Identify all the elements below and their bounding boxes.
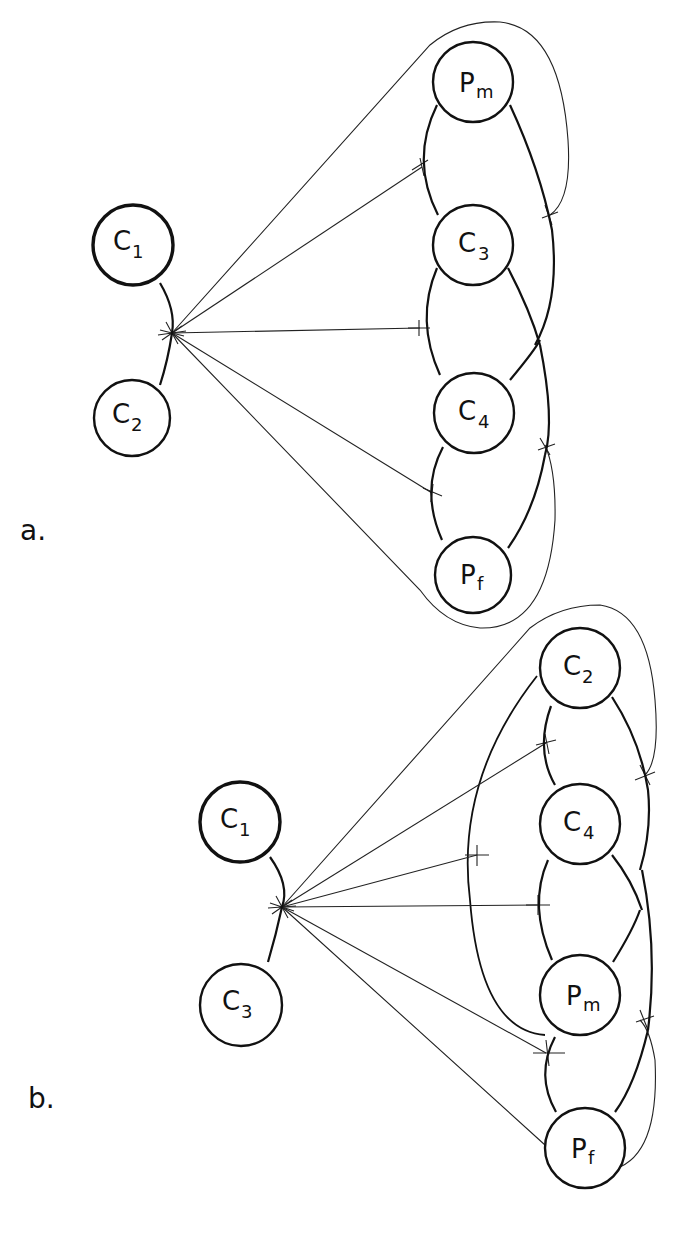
svg-text:C: C — [220, 804, 238, 834]
node-C3-b: C 3 — [200, 964, 282, 1046]
svg-text:C: C — [563, 651, 581, 681]
svg-text:P: P — [566, 981, 582, 1011]
panel-label-b: b. — [28, 1082, 55, 1115]
node-C1-b: C 1 — [200, 782, 280, 862]
node-C4-b: C 4 — [540, 784, 620, 864]
node-C2-a: C 2 — [94, 380, 170, 456]
chain-edges-a — [424, 105, 554, 548]
svg-text:4: 4 — [583, 822, 594, 843]
svg-text:P: P — [460, 560, 476, 590]
svg-text:P: P — [571, 1134, 587, 1164]
svg-text:3: 3 — [478, 243, 489, 264]
svg-text:C: C — [458, 228, 476, 258]
svg-text:C: C — [113, 226, 131, 256]
svg-text:4: 4 — [478, 411, 489, 432]
svg-text:2: 2 — [131, 414, 142, 435]
svg-text:1: 1 — [239, 819, 250, 840]
panel-label-a: a. — [20, 514, 46, 547]
svg-text:C: C — [563, 807, 581, 837]
svg-text:C: C — [112, 399, 130, 429]
node-C1-a: C 1 — [93, 205, 173, 285]
diagram-canvas: C 1 C 2 P m C 3 C 4 P f a. — [0, 0, 682, 1235]
node-Pf-b: P f — [545, 1108, 625, 1188]
svg-text:f: f — [588, 1147, 595, 1168]
spokes-a — [158, 22, 569, 628]
hub-stem-b — [268, 857, 284, 962]
svg-text:C: C — [222, 986, 240, 1016]
svg-text:f: f — [477, 573, 484, 594]
node-C4-a: C 4 — [434, 373, 514, 453]
svg-text:m: m — [476, 81, 494, 102]
node-Pm-a: P m — [433, 42, 513, 122]
svg-text:m: m — [583, 994, 601, 1015]
svg-text:3: 3 — [241, 1001, 252, 1022]
svg-text:C: C — [458, 396, 476, 426]
node-C2-b: C 2 — [540, 628, 620, 708]
node-C3-a: C 3 — [433, 205, 513, 285]
chain-edges-b — [539, 697, 652, 1112]
node-Pf-a: P f — [435, 537, 511, 613]
panel-b: C 1 C 3 C 2 C 4 P m P f b. — [28, 605, 656, 1188]
panel-a: C 1 C 2 P m C 3 C 4 P f a. — [20, 22, 569, 628]
node-Pm-b: P m — [540, 955, 620, 1035]
svg-text:2: 2 — [582, 666, 593, 687]
svg-text:1: 1 — [132, 241, 143, 262]
svg-text:P: P — [459, 68, 475, 98]
